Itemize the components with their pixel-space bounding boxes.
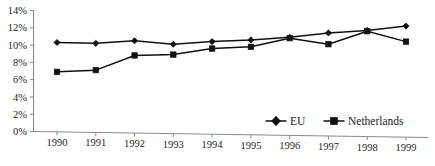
legend-marker-eu-diamond bbox=[272, 116, 281, 126]
legend-label-eu: EU bbox=[290, 115, 306, 127]
data-point-square bbox=[287, 35, 292, 40]
chart-legend: EU Netherlands bbox=[266, 115, 404, 127]
data-point-square bbox=[326, 42, 331, 47]
y-tick-label: 12% bbox=[8, 22, 28, 33]
data-point-square bbox=[365, 29, 370, 34]
x-tick-label: 1995 bbox=[240, 140, 261, 151]
series-netherlands bbox=[54, 29, 408, 75]
x-tick-label: 1992 bbox=[124, 138, 145, 149]
x-tick-label: 1990 bbox=[47, 137, 68, 148]
x-axis: 1990199119921993199419951996199719981999 bbox=[34, 132, 429, 154]
legend-label-netherlands: Netherlands bbox=[348, 115, 404, 127]
data-point-square bbox=[54, 69, 59, 74]
data-point-diamond bbox=[325, 30, 331, 36]
y-tick-label: 10% bbox=[8, 40, 28, 51]
data-point-square bbox=[209, 46, 214, 51]
chart-canvas: 0%2%4%6%8%10%12%14% 19901991199219931994… bbox=[0, 0, 435, 166]
series-line bbox=[57, 31, 406, 72]
y-tick-label: 8% bbox=[13, 57, 27, 68]
line-chart: 0%2%4%6%8%10%12%14% 19901991199219931994… bbox=[0, 0, 435, 166]
legend-marker-netherlands-square bbox=[331, 118, 338, 125]
data-point-square bbox=[132, 53, 137, 58]
data-point-diamond bbox=[131, 38, 137, 44]
x-tick-label: 1993 bbox=[163, 139, 184, 150]
data-point-diamond bbox=[403, 23, 409, 29]
legend-entry-eu: EU bbox=[266, 115, 306, 127]
data-point-diamond bbox=[93, 40, 99, 46]
y-tick-label: 14% bbox=[8, 5, 28, 16]
y-tick-labels: 0%2%4%6%8%10%12%14% bbox=[8, 5, 28, 137]
data-point-square bbox=[403, 39, 408, 44]
y-tick-label: 0% bbox=[13, 126, 27, 137]
y-tick-label: 4% bbox=[13, 92, 27, 103]
y-tick-label: 6% bbox=[13, 74, 27, 85]
data-point-diamond bbox=[248, 37, 254, 43]
x-tick-labels: 1990199119921993199419951996199719981999 bbox=[47, 137, 417, 153]
x-tick-label: 1998 bbox=[357, 142, 378, 153]
x-tick-label: 1991 bbox=[85, 137, 106, 148]
data-point-square bbox=[248, 44, 253, 49]
y-tick-label: 2% bbox=[13, 109, 27, 120]
plot-series-group bbox=[54, 23, 409, 75]
data-point-square bbox=[171, 52, 176, 57]
data-point-diamond bbox=[54, 39, 60, 45]
legend-entry-netherlands: Netherlands bbox=[324, 115, 404, 127]
x-tick-label: 1997 bbox=[318, 141, 339, 152]
y-axis: 0%2%4%6%8%10%12%14% bbox=[8, 5, 34, 137]
x-tick-label: 1994 bbox=[202, 139, 224, 150]
data-point-square bbox=[93, 67, 98, 72]
x-tick-label: 1996 bbox=[279, 140, 300, 151]
x-tick-label: 1999 bbox=[396, 142, 417, 153]
data-point-diamond bbox=[209, 39, 215, 45]
data-point-diamond bbox=[170, 41, 176, 47]
